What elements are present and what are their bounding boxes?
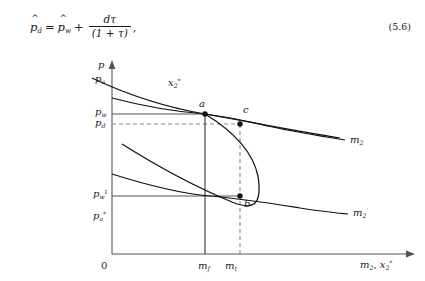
curve-label-x2-sup: * [178,77,181,84]
curve-label-m2-prime: m2′ [353,208,368,219]
point-label-a: a [199,99,205,109]
y-axis-label: p [98,60,104,70]
point-label-c: c [243,105,249,115]
equation-trailing-comma: , [133,20,137,34]
curve-backward-bending [122,114,259,206]
fraction: dτ (1 + τ) [89,14,131,39]
p-hat-w-sub: w [65,26,71,35]
point-label-b: b [244,199,250,209]
p-hat-d: ^ pd [30,18,42,35]
x-axis-label: m2, x2* [360,260,392,271]
fraction-numerator: dτ [101,14,120,26]
point-c [237,121,242,126]
p-hat-d-base: p [30,20,37,34]
y-tick-pa-sub: a [101,78,105,85]
y-axis-label-text: p [98,59,104,70]
curve-label-m2-sub: 2 [359,139,363,146]
point-label-a-text: a [199,98,205,109]
curve-x2-star [92,78,340,138]
curve-m2-prime [112,174,348,214]
x-axis-label-x-sup: * [389,259,392,266]
point-label-b-text: b [244,198,250,209]
x-tick-mt-sub: t [234,265,237,272]
y-tick-label-pd: pd [95,118,105,129]
p-hat-w-base: p [58,20,65,34]
p-hat-w: ^ pw [58,18,71,35]
y-tick-pwt-sup: t [105,188,108,195]
y-tick-pd-sub: d [101,122,105,129]
chart-svg [0,52,425,281]
point-label-c-text: c [243,104,249,115]
y-tick-pw-sub: w [101,111,106,118]
y-axis-arrow-icon [109,60,116,69]
curve-m2 [112,98,345,140]
curve-label-x2-star: x2* [168,78,181,89]
x-tick-label-origin: 0 [101,261,107,271]
y-tick-label-pastar: pa* [93,211,106,222]
fraction-denominator: (1 + τ) [89,27,131,39]
point-a [202,111,207,116]
plus-sign: + [71,20,87,34]
y-tick-label-pwt: pwt [93,189,107,200]
equation-block: ^ pd = ^ pw + dτ (1 + τ) , (5.6) [0,8,425,42]
x-tick-label-mt: mt [225,261,237,272]
figure-chart: p pa pw pd pwt pa* 0 mf mt m2, x2* x2* m… [0,52,425,281]
x-tick-mf-sub: f [207,265,209,272]
point-b [237,193,242,198]
equals-sign: = [42,20,58,34]
x-tick-origin-text: 0 [101,260,107,271]
y-tick-pastar-sup: * [103,210,106,217]
x-axis-arrow-icon [406,251,415,258]
curve-label-m2: m2 [350,135,363,146]
x-tick-label-mf: mf [198,261,210,272]
curve-label-m2p-sup: ′ [366,207,367,214]
p-hat-d-sub: d [37,26,42,35]
equation-number: (5.6) [388,21,411,32]
y-tick-label-pa: pa [95,74,105,85]
equation-5-6: ^ pd = ^ pw + dτ (1 + τ) , [30,14,137,39]
